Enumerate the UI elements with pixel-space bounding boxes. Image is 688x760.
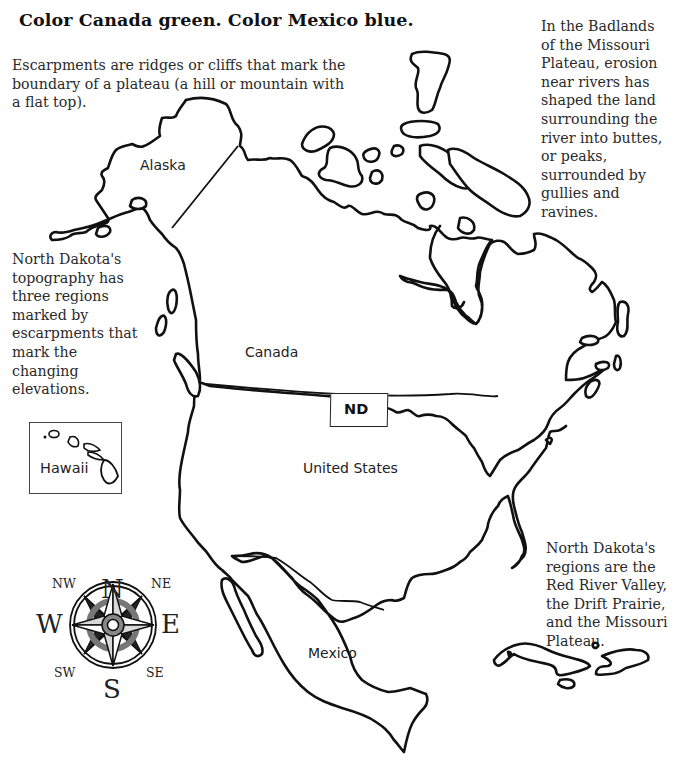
arctic-island: [363, 148, 379, 161]
newfoundland-island: [617, 302, 628, 337]
arctic-island: [392, 145, 404, 156]
alaska-label: Alaska: [140, 157, 186, 173]
kodiak-island: [96, 226, 110, 237]
compass-south-label: S: [103, 676, 121, 702]
compass-nw-label: NW: [52, 576, 76, 591]
pei-island: [596, 362, 609, 370]
arctic-island: [417, 192, 434, 209]
jamaica-island: [558, 679, 574, 688]
alaska-island: [130, 198, 146, 209]
hawaii-inset: [29, 422, 122, 494]
arctic-island: [411, 52, 450, 113]
us-mexico-border: [232, 556, 384, 610]
compass-ne-label: NE: [151, 576, 171, 591]
caribbean-islet: [593, 643, 598, 648]
southampton-island: [458, 218, 474, 234]
haida-gwaii-island: [167, 290, 177, 313]
arctic-island: [401, 121, 440, 137]
hawaii-label: Hawaii: [40, 460, 89, 476]
north-dakota-label: ND: [344, 401, 368, 417]
compass-east-label: E: [161, 611, 180, 637]
canada-label: Canada: [245, 344, 298, 360]
anticosti-island: [580, 336, 598, 345]
arctic-island: [319, 147, 362, 187]
mexico-label: Mexico: [308, 645, 357, 661]
caribbean-islet: [508, 652, 511, 656]
arctic-island: [370, 170, 382, 183]
compass-north-label: N: [101, 576, 124, 602]
hispaniola-island: [596, 649, 648, 674]
coastal-island: [156, 316, 166, 336]
united-states-label: United States: [303, 460, 398, 476]
cape-breton-island: [614, 356, 621, 370]
alaska-west-coastline: [50, 100, 200, 382]
vancouver-island: [174, 354, 200, 397]
compass-se-label: SE: [146, 665, 164, 680]
cuba-island: [494, 643, 590, 675]
compass-west-label: W: [36, 611, 63, 637]
compass-sw-label: SW: [54, 665, 75, 680]
